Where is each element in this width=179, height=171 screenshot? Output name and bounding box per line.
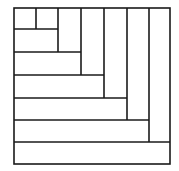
- nested-rectangles-diagram: [0, 0, 179, 171]
- divider-lines: [14, 8, 170, 142]
- outer-square: [14, 8, 170, 164]
